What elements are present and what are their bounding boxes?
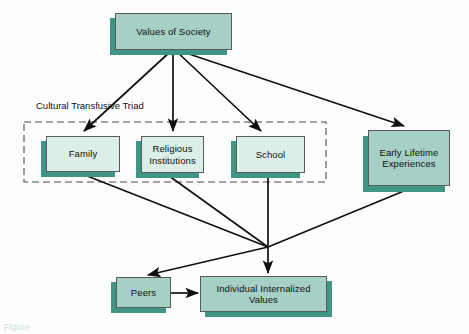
- node-peers[interactable]: Peers: [116, 277, 171, 308]
- node-label-peers: Peers: [128, 287, 159, 299]
- node-individual-internalized-values[interactable]: Individual Internalized Values: [200, 276, 327, 312]
- edge-junction-to-peers: [148, 247, 268, 275]
- edge-society-to-family: [84, 50, 172, 131]
- node-label-early-lifetime-experiences: Early Lifetime Experiences: [369, 147, 449, 170]
- edge-early-lifetime-to-junction: [268, 186, 416, 247]
- node-religious-institutions[interactable]: Religious Institutions: [141, 136, 204, 173]
- node-label-family: Family: [66, 148, 101, 160]
- diagram-canvas: Values of Society Family Religious Insti…: [0, 0, 469, 334]
- edge-family-to-junction: [77, 172, 268, 247]
- node-label-individual-internalized-values: Individual Internalized Values: [201, 283, 326, 306]
- edge-society-to-early-lifetime: [177, 50, 404, 126]
- node-values-of-society[interactable]: Values of Society: [115, 13, 232, 50]
- node-label-religious-institutions: Religious Institutions: [142, 143, 203, 166]
- edge-society-to-school: [175, 50, 261, 131]
- node-school[interactable]: School: [236, 136, 305, 173]
- node-label-values-of-society: Values of Society: [133, 26, 213, 38]
- cultural-triad-group-label: Cultural Transfusive Triad: [36, 100, 144, 111]
- node-early-lifetime-experiences[interactable]: Early Lifetime Experiences: [368, 130, 450, 186]
- figure-caption: Figure: [4, 322, 30, 332]
- edge-religious-to-junction: [165, 173, 268, 247]
- node-label-school: School: [253, 149, 289, 161]
- node-family[interactable]: Family: [46, 136, 120, 172]
